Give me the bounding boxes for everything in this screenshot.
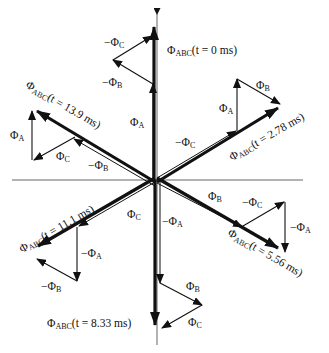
- component-label-phiC-t139: ΦC: [56, 150, 70, 164]
- resultant-label-t833: ΦABC(t = 8.33 ms): [47, 317, 132, 331]
- component-label-neg-phiC-t278: −ΦC: [175, 136, 195, 150]
- component-label-neg-phiC-t0: −ΦC: [104, 36, 124, 50]
- phasor-group-t278: [157, 79, 280, 182]
- component-label-phiB-t278: ΦB: [256, 79, 270, 93]
- component-label-neg-phiA-t111: −ΦA: [81, 247, 102, 261]
- component-arrow-neg-phiB: [37, 259, 77, 281]
- component-label-neg-phiA-t833: −ΦA: [162, 215, 183, 229]
- component-label-phiC-t833: ΦC: [188, 316, 202, 330]
- component-label-neg-phiC-t556: −ΦC: [242, 196, 262, 210]
- resultant-label-t0: ΦABC(t = 0 ms): [167, 44, 237, 58]
- phasor-diagram: ΦABC(t = 0 ms) ΦABC(t = 2.78 ms) ΦABC(t …: [0, 0, 329, 353]
- component-label-neg-phiB-t139: −ΦB: [88, 159, 108, 173]
- component-label-phiB-t833: ΦB: [186, 280, 200, 294]
- component-label-neg-phiA-t556: −ΦA: [290, 221, 311, 235]
- resultant-label-t278: ΦABC(t = 2.78 ms): [227, 110, 307, 164]
- component-arrow-neg-phiC: [157, 131, 236, 178]
- resultant-label-t556: ΦABC(t = 5.56 ms): [225, 226, 305, 280]
- component-label-phiA-t0: ΦA: [130, 116, 144, 130]
- component-arrow-neg-phiB: [74, 139, 155, 186]
- component-label-neg-phiB-t0: −ΦB: [102, 76, 122, 90]
- component-label-neg-phiB-t111: −ΦB: [41, 280, 61, 294]
- component-label-phiA-t278: ΦA: [219, 102, 233, 116]
- component-label-phiC-t111: ΦC: [127, 208, 141, 222]
- resultant-label-t139: ΦABC(t = 13.9 ms): [23, 78, 103, 132]
- resultant-arrow-t556: [157, 178, 278, 248]
- component-label-phiB-t556: ΦB: [208, 190, 222, 204]
- component-label-phiA-t139: ΦA: [10, 129, 24, 143]
